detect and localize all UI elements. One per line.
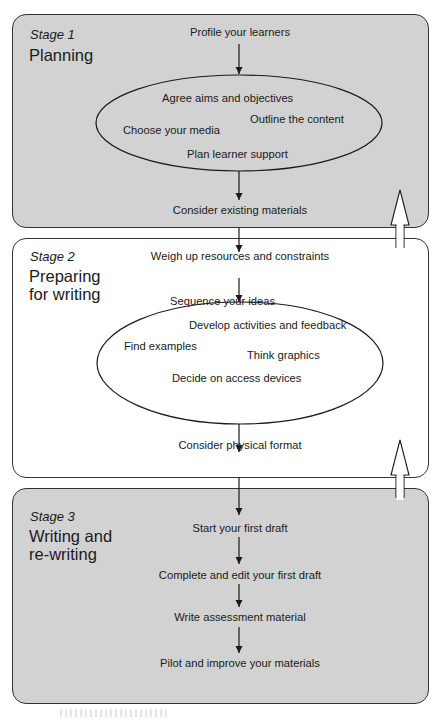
stage-3-number: Stage 3 <box>30 509 75 524</box>
step-start-draft: Start your first draft <box>192 522 287 534</box>
step-existing-materials: Consider existing materials <box>173 204 307 216</box>
stage-1-box: Stage 1 Planning Profile your learners A… <box>12 14 429 228</box>
stage-2-title-line-2: for writing <box>29 285 101 303</box>
step-assessment: Write assessment material <box>174 611 306 623</box>
oval-item-aims: Agree aims and objectives <box>162 92 293 104</box>
oval-item-support: Plan learner support <box>187 148 288 160</box>
step-weigh-resources: Weigh up resources and constraints <box>151 250 329 262</box>
oval-item-graphics: Think graphics <box>247 349 320 361</box>
oval-item-examples: Find examples <box>124 340 197 352</box>
scan-artifact <box>60 709 170 717</box>
oval-item-sequence: Sequence your ideas <box>170 295 275 307</box>
oval-item-outline: Outline the content <box>250 113 344 125</box>
oval-item-activities: Develop activities and feedback <box>189 319 346 331</box>
step-pilot: Pilot and improve your materials <box>160 657 320 669</box>
stage-2-number: Stage 2 <box>30 249 75 264</box>
step-physical-format: Consider physical format <box>178 439 301 451</box>
stage-1-title: Planning <box>29 46 93 64</box>
stage-3-title-line-1: Writing and <box>29 527 112 545</box>
stage-3-box: Stage 3 Writing and re-writing Start you… <box>12 488 429 704</box>
oval-item-media: Choose your media <box>123 124 220 136</box>
stage-1-number: Stage 1 <box>30 27 75 42</box>
stage-2-box: Stage 2 Preparing for writing Weigh up r… <box>12 238 429 478</box>
oval-item-access-devices: Decide on access devices <box>172 372 301 384</box>
step-complete-draft: Complete and edit your first draft <box>159 569 321 581</box>
step-profile-learners: Profile your learners <box>190 26 290 38</box>
stage-2-title-line-1: Preparing <box>29 267 101 285</box>
stage-3-title-line-2: re-writing <box>29 545 97 563</box>
